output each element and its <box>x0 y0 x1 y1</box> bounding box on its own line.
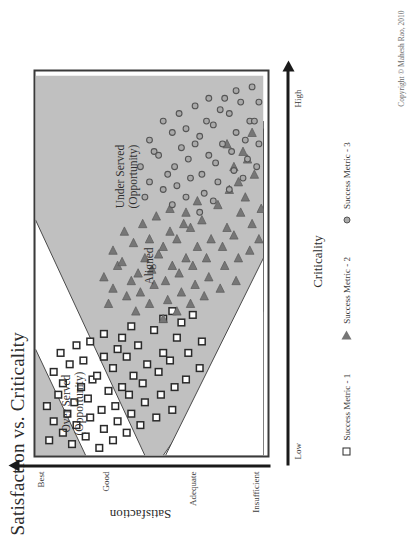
square-marker <box>123 429 130 436</box>
square-marker <box>100 330 107 337</box>
square-marker <box>157 391 164 398</box>
square-marker <box>109 364 116 371</box>
square-marker <box>114 345 121 352</box>
square-marker <box>150 326 157 333</box>
square-marker <box>98 406 105 413</box>
region-label-line1: Over Served <box>59 374 71 432</box>
square-marker <box>137 421 144 428</box>
square-marker <box>118 334 125 341</box>
region-label-under-served: Under Served (Opportunity) <box>113 144 139 208</box>
square-marker <box>57 349 64 356</box>
x-axis-arrow-icon <box>282 60 294 71</box>
square-marker <box>96 444 103 451</box>
circle-marker-icon <box>343 216 350 223</box>
square-marker <box>105 387 112 394</box>
square-marker <box>43 402 50 409</box>
square-marker <box>112 402 119 409</box>
square-marker-icon <box>342 447 350 455</box>
legend-label: Success Metric - 3 <box>341 142 351 209</box>
square-marker <box>100 353 107 360</box>
legend-label: Success Metric - 2 <box>341 257 351 324</box>
square-marker <box>130 372 137 379</box>
square-marker <box>182 376 189 383</box>
y-tick-insufficient: Insufficient <box>250 471 260 549</box>
square-marker <box>45 437 52 444</box>
region-label-line1: Under Served <box>113 144 125 208</box>
square-marker <box>198 338 205 345</box>
legend-item-success-metric-2: Success Metric - 2 <box>341 257 351 340</box>
region-label-line2: (Opportunity) <box>72 371 84 435</box>
square-marker <box>86 338 93 345</box>
square-marker <box>128 410 135 417</box>
square-marker <box>173 334 180 341</box>
square-marker <box>100 425 107 432</box>
square-marker <box>114 418 121 425</box>
square-marker <box>185 349 192 356</box>
square-marker <box>178 319 185 326</box>
square-marker <box>139 380 146 387</box>
square-marker <box>155 368 162 375</box>
x-axis-title: Criticality <box>309 161 325 361</box>
square-marker <box>128 323 135 330</box>
square-marker <box>153 414 160 421</box>
y-tick-best: Best <box>35 471 45 549</box>
y-axis-line <box>18 465 270 468</box>
square-marker <box>118 383 125 390</box>
region-label-line2: (Opportunity) <box>126 144 138 208</box>
square-marker <box>166 357 173 364</box>
square-marker <box>123 353 130 360</box>
x-tick-low: Low <box>292 443 302 460</box>
page-title: Satisfaction vs. Criticality <box>6 332 28 536</box>
region-label-over-served: Over Served (Opportunity) <box>59 371 85 435</box>
square-marker <box>68 440 75 447</box>
copyright-notice: Copyright © Mahesh Rao, 2010 <box>396 10 405 106</box>
y-axis-arrow-icon <box>8 460 19 472</box>
region-label-line1: Aligned <box>142 247 154 284</box>
legend-item-success-metric-1: Success Metric - 1 <box>341 373 351 455</box>
y-axis-title: Satisfaction <box>80 505 200 521</box>
square-marker <box>141 399 148 406</box>
square-marker <box>189 311 196 318</box>
square-marker <box>159 349 166 356</box>
square-marker <box>93 372 100 379</box>
x-axis-line <box>286 69 289 465</box>
square-marker <box>171 383 178 390</box>
square-marker <box>80 357 87 364</box>
region-label-aligned: Aligned <box>142 247 155 284</box>
legend-label: Success Metric - 1 <box>341 373 351 440</box>
plot-area: Over Served (Opportunity) Aligned Under … <box>33 69 269 457</box>
triangle-marker-icon <box>341 330 351 339</box>
square-marker <box>125 391 132 398</box>
legend: Success Metric - 1 Success Metric - 2 Su… <box>341 142 351 455</box>
square-marker <box>169 406 176 413</box>
square-marker <box>73 342 80 349</box>
square-marker <box>109 437 116 444</box>
square-marker <box>66 361 73 368</box>
square-marker <box>50 368 57 375</box>
square-marker <box>134 342 141 349</box>
legend-item-success-metric-3: Success Metric - 3 <box>341 142 351 223</box>
figure-canvas: Satisfaction vs. Criticality Over Served… <box>0 0 413 551</box>
square-marker <box>143 361 150 368</box>
x-tick-high: High <box>292 89 302 107</box>
square-marker <box>50 418 57 425</box>
square-marker <box>196 364 203 371</box>
square-marker <box>86 414 93 421</box>
